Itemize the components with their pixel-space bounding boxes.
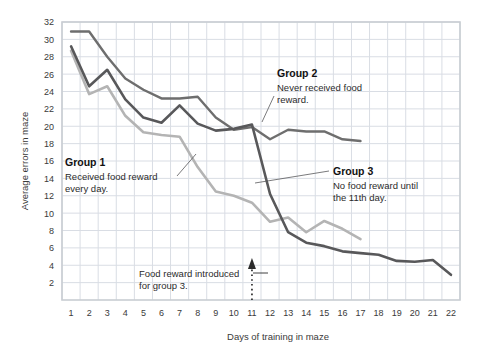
x-tick-label: 22 — [446, 308, 456, 318]
x-tick-label: 12 — [265, 308, 275, 318]
y-tick-label: 2 — [49, 278, 54, 288]
x-tick-label: 1 — [69, 308, 74, 318]
y-tick-label: 4 — [49, 261, 54, 271]
y-tick-label: 18 — [44, 139, 54, 149]
x-axis-title: Days of training in maze — [227, 331, 329, 342]
x-tick-label: 13 — [283, 308, 293, 318]
annotation-group-3-title: Group 3 — [333, 165, 373, 177]
annotation-food-reward-line-1: Food reward introduced — [139, 268, 239, 279]
line-chart-svg: 2468101214161820222426283032 12345678910… — [0, 0, 497, 351]
chart-figure: 2468101214161820222426283032 12345678910… — [0, 0, 497, 351]
annotation-group-2-line-1: Never received food — [277, 82, 362, 93]
x-tick-label: 7 — [177, 308, 182, 318]
x-tick-label: 6 — [159, 308, 164, 318]
x-tick-label: 11 — [247, 308, 256, 318]
x-tick-label: 3 — [105, 308, 110, 318]
y-tick-label: 14 — [44, 174, 54, 184]
annotation-group-3-line-2: the 11th day. — [333, 192, 387, 203]
x-tick-label: 9 — [213, 308, 218, 318]
x-tick-label: 14 — [301, 308, 311, 318]
y-tick-label: 16 — [44, 156, 54, 166]
x-tick-label: 18 — [374, 308, 384, 318]
x-tick-label: 5 — [141, 308, 146, 318]
y-tick-label: 10 — [44, 209, 54, 219]
annotation-food-reward-line-2: for group 3. — [139, 280, 188, 291]
x-tick-label: 20 — [410, 308, 420, 318]
annotation-group-2-title: Group 2 — [277, 67, 317, 79]
y-tick-label: 32 — [44, 17, 54, 27]
y-axis-title: Average errors in maze — [19, 112, 30, 211]
y-tick-label: 6 — [49, 243, 54, 253]
x-tick-label: 10 — [229, 308, 239, 318]
annotation-group-1-line-1: Received food reward — [65, 171, 157, 182]
annotation-group-1-line-2: every day. — [65, 183, 108, 194]
x-tick-label: 8 — [195, 308, 200, 318]
x-tick-label: 4 — [123, 308, 128, 318]
x-tick-label: 17 — [355, 308, 365, 318]
y-tick-label: 20 — [44, 122, 54, 132]
annotation-group-3-line-1: No food reward until — [333, 180, 418, 191]
y-tick-label: 26 — [44, 70, 54, 80]
y-tick-label: 24 — [44, 87, 54, 97]
annotation-group-1-title: Group 1 — [65, 156, 105, 168]
x-tick-label: 15 — [319, 308, 329, 318]
y-tick-label: 30 — [44, 35, 54, 45]
x-tick-label: 21 — [428, 308, 438, 318]
y-tick-label: 12 — [44, 191, 54, 201]
x-tick-label: 19 — [392, 308, 402, 318]
x-tick-label: 2 — [87, 308, 92, 318]
annotation-group-2-line-2: reward. — [277, 94, 309, 105]
y-tick-label: 22 — [44, 104, 54, 114]
y-tick-label: 28 — [44, 52, 54, 62]
x-tick-label: 16 — [337, 308, 347, 318]
y-tick-label: 8 — [49, 226, 54, 236]
